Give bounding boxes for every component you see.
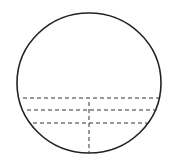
dashed-chords (23, 98, 159, 123)
circle-diagram (0, 0, 173, 167)
